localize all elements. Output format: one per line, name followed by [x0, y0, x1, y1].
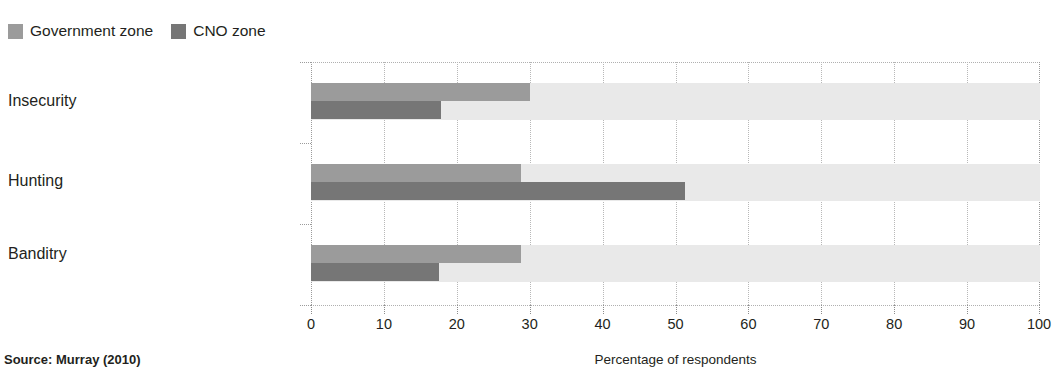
x-axis-title: Percentage of respondents [311, 352, 1040, 368]
x-axis-tick [967, 305, 968, 314]
x-axis-tick [530, 305, 531, 314]
x-axis-tick-label-80: 80 [886, 316, 902, 332]
x-axis-tick [821, 305, 822, 314]
x-axis-tick-label-70: 70 [813, 316, 829, 332]
x-axis-tick-label-30: 30 [522, 316, 538, 332]
bar-banditry-cno-zone [311, 263, 439, 281]
y-axis-tick [300, 305, 311, 306]
bar-insecurity-cno-zone [311, 101, 441, 119]
x-axis-tick-label-10: 10 [376, 316, 392, 332]
bar-chart: Insecurity Hunting Banditry [0, 0, 1058, 379]
y-axis-tick [300, 143, 311, 144]
bar-hunting-government-zone [311, 164, 521, 182]
x-axis-tick [748, 305, 749, 314]
x-axis-tick-label-20: 20 [449, 316, 465, 332]
x-axis-tick [311, 305, 312, 314]
bar-insecurity-government-zone [311, 83, 530, 101]
x-axis-tick-label-100: 100 [1027, 316, 1051, 332]
x-axis-tick [894, 305, 895, 314]
plot-area [311, 62, 1040, 305]
x-axis-tick [676, 305, 677, 314]
x-axis-tick [457, 305, 458, 314]
source-note: Source: Murray (2010) [4, 352, 141, 368]
y-axis-tick [300, 224, 311, 225]
x-axis-tick-label-90: 90 [959, 316, 975, 332]
bar-banditry-government-zone [311, 245, 521, 263]
category-label-insecurity: Insecurity [8, 92, 76, 110]
x-axis-tick [384, 305, 385, 314]
x-axis-tick [1039, 305, 1040, 314]
y-axis-tick [300, 62, 311, 63]
category-label-hunting: Hunting [8, 172, 63, 190]
x-axis-tick-label-0: 0 [307, 316, 315, 332]
x-axis-tick-label-40: 40 [595, 316, 611, 332]
category-label-banditry: Banditry [8, 245, 67, 263]
x-axis-tick-label-50: 50 [667, 316, 683, 332]
bar-hunting-cno-zone [311, 182, 685, 200]
x-axis-tick [603, 305, 604, 314]
x-axis-tick-label-60: 60 [740, 316, 756, 332]
